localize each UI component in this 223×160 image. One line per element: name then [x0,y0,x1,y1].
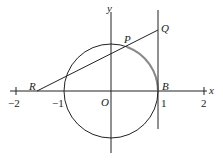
tick-label-neg2: −2 [8,98,20,109]
point-label-b: B [162,81,169,92]
y-axis-label: y [107,3,112,14]
point-label-q: Q [161,23,169,34]
origin-label: O [101,97,109,108]
point-label-r: R [29,81,36,92]
arc-pb [127,47,158,91]
tick-label-2: 2 [201,98,207,109]
x-axis-label: x [209,85,214,96]
secant-line-rq [37,30,158,91]
tangent-circle-diagram: y x −2 −1 1 2 O R P Q B [0,0,223,160]
tick-label-1: 1 [161,98,167,109]
tick-label-neg1: −1 [52,98,64,109]
point-label-p: P [124,34,131,45]
